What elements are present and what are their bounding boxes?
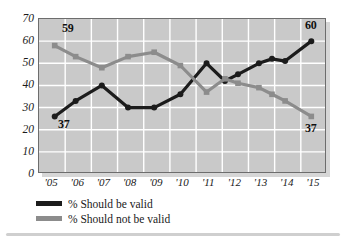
value-label: 59 (62, 21, 74, 36)
legend-swatch-icon (36, 216, 62, 221)
x-tick-label: '15 (298, 176, 328, 188)
legend-swatch-icon (36, 201, 62, 206)
legend-label: % Should be valid (68, 198, 153, 210)
value-label: 37 (58, 117, 70, 132)
value-label: 37 (305, 121, 317, 136)
legend-item-0[interactable]: % Should be valid (36, 196, 276, 211)
chart-legend: % Should be valid% Should not be valid (36, 196, 276, 226)
legend-label: % Should not be valid (68, 213, 170, 225)
value-label: 60 (305, 18, 317, 33)
legend-item-1[interactable]: % Should not be valid (36, 211, 276, 226)
bottom-divider (6, 233, 340, 236)
chart-figure: 706050403020100 '05'06'07'08'09'10'11'12… (0, 0, 344, 246)
